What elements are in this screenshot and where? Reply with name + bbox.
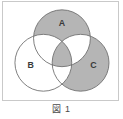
venn-diagram-svg: A B C <box>3 2 118 100</box>
figure-caption: 図 1 <box>0 103 123 115</box>
circle-b-label: B <box>27 60 33 70</box>
venn-diagram-figure: A B C 図 1 <box>0 0 123 119</box>
diagram-frame: A B C <box>2 1 119 101</box>
circle-a-label: A <box>59 18 66 28</box>
circle-c-label: C <box>90 60 97 70</box>
